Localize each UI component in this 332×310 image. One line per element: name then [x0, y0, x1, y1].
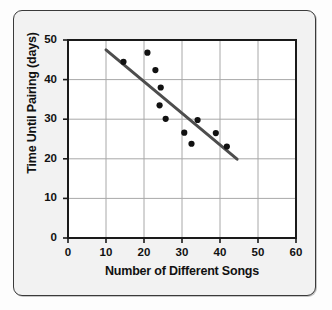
x-tick-label: 60: [283, 246, 309, 258]
x-tick-label: 50: [245, 246, 271, 258]
data-point: [144, 50, 150, 56]
y-tick-label: 20: [31, 152, 57, 164]
y-tick-label: 40: [31, 73, 57, 85]
data-point: [152, 67, 158, 73]
y-tick-label: 10: [31, 191, 57, 203]
data-point: [194, 117, 200, 123]
y-tick-label: 30: [31, 112, 57, 124]
x-tick-label: 30: [169, 246, 195, 258]
x-tick-label: 0: [55, 246, 81, 258]
data-point: [224, 143, 230, 149]
x-tick-label: 10: [93, 246, 119, 258]
data-point: [213, 130, 219, 136]
plot-container: Time Until Pairing (days) Number of Diff…: [0, 0, 332, 310]
x-axis-title: Number of Different Songs: [68, 264, 296, 278]
data-point: [163, 116, 169, 122]
data-point: [188, 141, 194, 147]
figure: Time Until Pairing (days) Number of Diff…: [0, 0, 332, 310]
x-tick-label: 40: [207, 246, 233, 258]
data-point: [158, 84, 164, 90]
data-point: [120, 59, 126, 65]
y-tick-label: 0: [31, 231, 57, 243]
x-tick-label: 20: [131, 246, 157, 258]
data-point: [181, 130, 187, 136]
data-point: [156, 102, 162, 108]
y-tick-label: 50: [31, 33, 57, 45]
